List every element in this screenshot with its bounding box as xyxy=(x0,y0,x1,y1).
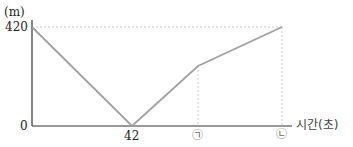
x-tick-b: ㉡ xyxy=(276,129,287,140)
y-tick-420: 420 xyxy=(5,21,28,33)
x-axis-label: 시간(초) xyxy=(296,119,338,131)
y-unit-label: (m) xyxy=(4,6,25,18)
distance-line xyxy=(32,27,282,126)
x-tick-a: ㉠ xyxy=(192,130,203,141)
origin-label: 0 xyxy=(20,120,28,132)
x-tick-42: 42 xyxy=(124,130,139,142)
